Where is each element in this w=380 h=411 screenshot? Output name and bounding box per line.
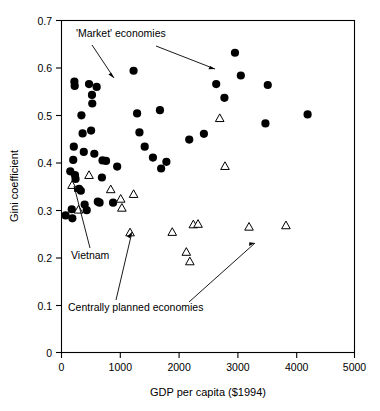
data-point-market [141,143,149,151]
x-tick-label: 1000 [109,361,133,373]
data-point-market [135,128,143,136]
data-point-market [231,49,239,57]
x-tick-label: 5000 [343,361,367,373]
data-point-market [157,164,165,172]
data-point-market [79,129,87,137]
data-point-market [98,173,106,181]
y-tick-label: 0.3 [37,205,52,217]
data-point-market [149,153,157,161]
centrally-planned-arrow-right [189,242,255,302]
data-point-planned [215,114,224,122]
data-point-market [88,99,96,107]
data-point-planned [182,248,191,256]
series-centrally-planned-economies [68,114,290,265]
y-tick-label: 0.6 [37,62,52,74]
y-tick-label: 0.7 [37,15,52,27]
data-point-market [102,157,110,165]
data-point-planned [221,162,230,170]
data-point-market [185,135,193,143]
market-economies-label: 'Market' economies [76,27,166,39]
data-point-planned [186,257,195,265]
x-axis-ticks [62,353,355,359]
data-point-market [70,143,78,151]
vietnam-arrow [74,186,90,248]
y-axis-tick-labels: 0.7 0.6 0.5 0.4 0.3 0.2 0.1 0 [37,15,52,359]
data-point-planned [168,228,177,236]
x-tick-label: 2000 [167,361,191,373]
data-point-market [200,130,208,138]
x-tick-label: 0 [59,361,65,373]
market-economies-arrow-right [156,46,215,69]
data-point-market [95,199,103,207]
series-market-economies [62,49,312,223]
scatter-plot-figure: 0.7 0.6 0.5 0.4 0.3 0.2 0.1 0 0 1000 200… [0,0,380,411]
x-axis-title: GDP per capita ($1994) [150,386,266,398]
x-axis-tick-labels: 0 1000 2000 3000 4000 5000 [59,361,367,373]
data-point-market [237,71,245,79]
data-point-planned [245,223,254,231]
x-tick-label: 3000 [226,361,250,373]
y-tick-label: 0.2 [37,252,52,264]
data-point-market [83,206,91,214]
data-point-market [85,80,93,88]
data-point-market [90,150,98,158]
data-point-market [129,67,137,75]
y-tick-label: 0.1 [37,300,52,312]
data-point-planned [118,204,127,212]
y-axis-ticks [56,21,62,353]
data-point-market [69,156,77,164]
data-point-market [261,119,269,127]
data-point-planned [85,171,94,179]
y-tick-label: 0 [46,347,52,359]
data-point-planned [129,190,138,198]
data-point-market [87,126,95,134]
data-point-planned [116,195,125,203]
y-axis-title: Gini coefficient [8,150,20,222]
x-tick-label: 4000 [285,361,309,373]
centrally-planned-arrow-left [116,232,132,300]
data-point-planned [282,221,291,229]
vietnam-label: Vietnam [71,249,110,261]
data-point-market [88,91,96,99]
data-point-market [220,94,228,102]
centrally-planned-label: Centrally planned economies [68,301,203,313]
y-tick-label: 0.5 [37,110,52,122]
data-point-market [77,187,85,195]
data-point-market [77,111,85,119]
data-point-market [93,83,101,91]
chart-svg: 0.7 0.6 0.5 0.4 0.3 0.2 0.1 0 0 1000 200… [0,0,380,411]
data-point-market [212,80,220,88]
data-point-market [156,106,164,114]
data-point-market [304,110,312,118]
data-point-market [71,82,79,90]
data-point-market [80,148,88,156]
data-point-market [264,81,272,89]
data-point-market [68,214,76,222]
data-point-planned [106,185,115,193]
data-point-market [133,109,141,117]
market-economies-arrow-left [92,45,114,78]
data-point-market [162,158,170,166]
data-point-market [113,162,121,170]
y-tick-label: 0.4 [37,157,52,169]
